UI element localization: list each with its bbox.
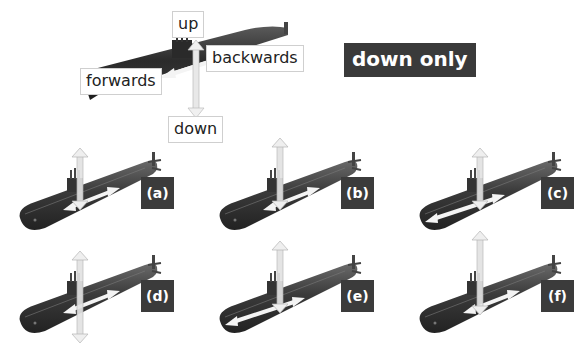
label-backwards: backwards (206, 45, 304, 72)
option-c[interactable]: (c) (405, 135, 587, 235)
option-label: (f) (541, 280, 574, 312)
option-f[interactable]: (f) (405, 238, 587, 338)
key-diagram: up backwards forwards down (60, 0, 320, 130)
option-a[interactable]: (a) (5, 135, 195, 235)
label-forwards: forwards (80, 68, 162, 95)
option-d[interactable]: (d) (5, 238, 195, 338)
label-up: up (172, 11, 204, 38)
option-label: (e) (341, 280, 374, 312)
option-b[interactable]: (b) (205, 135, 395, 235)
option-e[interactable]: (e) (205, 238, 395, 338)
option-label: (d) (141, 280, 174, 312)
option-label: (b) (341, 177, 374, 209)
option-label: (a) (141, 177, 174, 209)
question-label: down only (344, 43, 476, 77)
option-label: (c) (541, 177, 574, 209)
